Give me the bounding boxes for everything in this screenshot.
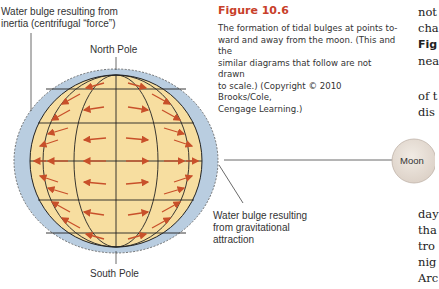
- gravity-bulge-label-line2: from gravitational: [213, 222, 307, 234]
- gravity-bulge-label-line1: Water bulge resulting: [213, 210, 307, 222]
- inertia-bulge-label-line1: Water bulge resulting from: [1, 6, 118, 18]
- inertia-bulge-label: Water bulge resulting from inertia (cent…: [1, 6, 118, 30]
- body-text-fragment: of t: [418, 88, 437, 104]
- body-text-fragment: cha: [418, 20, 439, 36]
- gravity-bulge-label: Water bulge resulting from gravitational…: [213, 210, 307, 246]
- north-pole-label: North Pole: [90, 44, 137, 56]
- caption-line: ward and away from the moon. (This and t…: [218, 35, 398, 58]
- body-text-fragment: Fig: [418, 36, 439, 53]
- caption-line: Cengage Learning.): [218, 104, 398, 116]
- caption-line: The formation of tidal bulges at points …: [218, 23, 398, 35]
- body-text-fragment: tha: [418, 222, 439, 238]
- gravity-bulge-label-line3: attraction: [213, 234, 307, 246]
- caption-line: similar diagrams that follow are not dra…: [218, 58, 398, 81]
- body-text-mid: of t dis: [418, 88, 437, 120]
- body-text-top: not cha Fig nea: [418, 4, 439, 69]
- inertia-bulge-label-line2: inertia (centrifugal “force”): [1, 18, 118, 30]
- moon-label: Moon: [400, 155, 424, 167]
- south-pole-label: South Pole: [90, 268, 139, 280]
- body-text-fragment: nea: [418, 53, 439, 69]
- figure-reference: Fig: [418, 38, 437, 51]
- body-text-fragment: Arc: [418, 270, 439, 286]
- figure-caption: The formation of tidal bulges at points …: [218, 23, 398, 115]
- body-text-fragment: dis: [418, 104, 437, 120]
- body-text-bottom: day tha tro nig Arc: [418, 206, 439, 286]
- body-text-fragment: tro: [418, 238, 439, 254]
- body-text-fragment: not: [418, 4, 439, 20]
- figure-title: Figure 10.6: [218, 4, 289, 17]
- body-text-fragment: nig: [418, 254, 439, 270]
- body-text-fragment: day: [418, 206, 439, 222]
- caption-line: to scale.) (Copyright © 2010 Brooks/Cole…: [218, 81, 398, 104]
